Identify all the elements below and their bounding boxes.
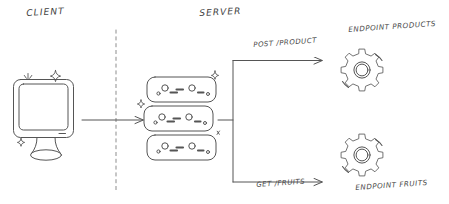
gear-icon (341, 49, 383, 91)
client-zone-title: CLIENT (26, 6, 65, 18)
flow-branch-lines (218, 61, 233, 183)
sparkle-icon (137, 71, 219, 135)
monitor-icon (14, 80, 74, 161)
gear-icon (341, 134, 383, 176)
sparkle-icon (17, 71, 60, 147)
server-stack-icon (144, 77, 216, 160)
diagram-canvas: CLIENT SERVER POST /PRODUCT GET /FRUITS … (0, 0, 449, 204)
